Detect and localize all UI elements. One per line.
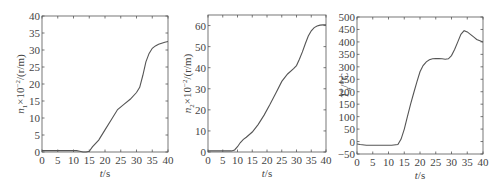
x-tick-label: 40 <box>163 154 175 166</box>
x-tick-label: 20 <box>415 156 427 168</box>
x-tick-label: 5 <box>55 154 61 166</box>
chart-panel-3: 0510152025303540−50050100150200250300350… <box>338 11 489 181</box>
x-tick-label: 25 <box>276 154 288 166</box>
y-tick-label: 50 <box>195 41 207 53</box>
y-tick-label: 60 <box>195 20 207 32</box>
plot-frame <box>357 17 483 154</box>
y-tick-label: 0 <box>35 146 41 158</box>
x-tick-label: 40 <box>478 156 490 168</box>
x-axis-label: t/s <box>100 167 110 179</box>
y-tick-label: 0 <box>201 146 207 158</box>
series-line-n1 <box>42 42 168 153</box>
x-tick-label: 10 <box>232 154 244 166</box>
y-tick-label: 50 <box>344 123 356 135</box>
figure-canvas: 05101520253035400510152025303540t/sn1×10… <box>0 0 502 184</box>
x-tick-label: 20 <box>262 154 274 166</box>
y-tick-label: 100 <box>339 111 356 123</box>
y-tick-label: 450 <box>339 23 356 35</box>
x-tick-label: 10 <box>68 154 80 166</box>
x-tick-label: 20 <box>100 154 112 166</box>
series-line-T4* <box>357 31 483 146</box>
y-tick-label: 15 <box>29 95 41 107</box>
x-tick-label: 35 <box>147 154 159 166</box>
y-tick-label: 300 <box>339 61 356 73</box>
x-tick-label: 15 <box>247 154 259 166</box>
y-tick-label: 20 <box>195 104 207 116</box>
x-tick-label: 15 <box>84 154 96 166</box>
x-tick-label: 30 <box>131 154 143 166</box>
y-tick-label: 30 <box>29 44 41 56</box>
x-axis-label: t/s <box>415 169 425 181</box>
chart-panel-1: 05101520253035400510152025303540t/sn1×10… <box>14 10 174 179</box>
y-tick-label: 40 <box>29 10 41 22</box>
y-axis-label: n1×10−2/(r/m) <box>14 54 29 114</box>
x-tick-label: 0 <box>354 156 360 168</box>
y-tick-label: 25 <box>29 61 41 73</box>
y-tick-label: 30 <box>195 83 207 95</box>
x-tick-label: 35 <box>462 156 474 168</box>
x-tick-label: 40 <box>321 154 333 166</box>
series-line-n2 <box>208 25 326 151</box>
y-tick-label: 5 <box>35 129 41 141</box>
x-tick-label: 35 <box>306 154 318 166</box>
x-tick-label: 5 <box>220 154 226 166</box>
y-tick-label: 10 <box>29 112 41 124</box>
plot-frame <box>42 16 168 152</box>
y-tick-label: 10 <box>195 125 207 137</box>
x-tick-label: 0 <box>205 154 211 166</box>
x-tick-label: 25 <box>430 156 442 168</box>
y-tick-label: 0 <box>350 136 356 148</box>
y-axis-label: n2×10−2/(r/m) <box>181 54 196 114</box>
y-tick-label: 400 <box>339 36 356 48</box>
x-tick-label: 25 <box>115 154 127 166</box>
x-axis-label: t/s <box>262 167 272 179</box>
x-tick-label: 30 <box>446 156 458 168</box>
chart-panel-2: 05101520253035400102030405060t/sn2×10−2/… <box>181 15 332 179</box>
x-tick-label: 0 <box>39 154 45 166</box>
y-tick-label: 500 <box>339 11 356 23</box>
y-tick-label: 150 <box>339 98 356 110</box>
y-tick-label: 40 <box>195 62 207 74</box>
x-tick-label: 15 <box>399 156 411 168</box>
y-tick-label: 20 <box>29 78 41 90</box>
x-tick-label: 5 <box>370 156 376 168</box>
y-tick-label: 350 <box>339 48 356 60</box>
y-tick-label: −50 <box>338 148 356 160</box>
y-tick-label: 35 <box>29 27 41 39</box>
x-tick-label: 30 <box>291 154 303 166</box>
x-tick-label: 10 <box>383 156 395 168</box>
